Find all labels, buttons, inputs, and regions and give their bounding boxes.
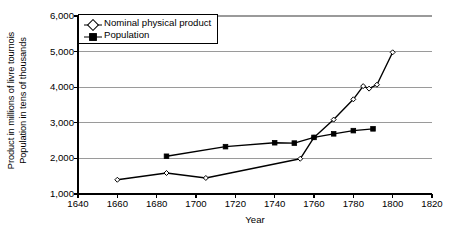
series-population xyxy=(164,127,375,159)
chart-legend: Nominal physical product Population xyxy=(78,14,218,44)
data-point xyxy=(331,132,336,137)
data-point xyxy=(115,177,120,182)
legend-item-nominal-physical-product: Nominal physical product xyxy=(83,17,211,29)
y-tick-label: 3,000 xyxy=(34,118,74,128)
y-tick-label: 6,000 xyxy=(34,11,74,21)
data-series-layer xyxy=(115,50,395,182)
x-tick-label: 1800 xyxy=(371,198,415,209)
y-tick-label: 4,000 xyxy=(34,82,74,92)
x-tick-label: 1720 xyxy=(213,198,257,209)
data-point xyxy=(371,127,376,132)
legend-item-population: Population xyxy=(83,29,211,41)
data-point xyxy=(164,171,169,176)
legend-label-population: Population xyxy=(103,29,149,41)
y-axis-tick-labels: 1,0002,0003,0004,0005,0006,000 xyxy=(30,16,74,194)
data-point xyxy=(351,128,356,133)
x-tick-label: 1760 xyxy=(292,198,336,209)
x-tick-label: 1820 xyxy=(410,198,452,209)
y-axis-title-line-1: Product in millions of livre tournois xyxy=(7,31,19,168)
legend-label-nominal-physical-product: Nominal physical product xyxy=(103,17,211,29)
x-tick-label: 1740 xyxy=(253,198,297,209)
x-tick-label: 1660 xyxy=(95,198,139,209)
data-point xyxy=(223,144,228,149)
x-axis-tick-labels: 1640166016801700172017401760178018001820 xyxy=(78,198,432,212)
x-tick-label: 1640 xyxy=(56,198,100,209)
x-tick-label: 1780 xyxy=(331,198,375,209)
data-point xyxy=(374,82,379,87)
x-tick-label: 1680 xyxy=(135,198,179,209)
data-point xyxy=(203,175,208,180)
data-point xyxy=(390,50,395,55)
filled-square-marker-icon xyxy=(83,29,103,41)
y-tick-label: 2,000 xyxy=(34,153,74,163)
data-point xyxy=(272,140,277,145)
data-point xyxy=(292,141,297,146)
series-nominal-physical-product xyxy=(115,50,395,182)
y-tick-label: 5,000 xyxy=(34,47,74,57)
y-axis-title-line-2: Population in tens of thousands xyxy=(18,31,30,168)
chart-figure: Product in millions of livre tournois Po… xyxy=(0,0,452,243)
data-point xyxy=(164,154,169,159)
x-axis-title: Year xyxy=(78,214,432,225)
open-diamond-marker-icon xyxy=(83,17,103,29)
data-point xyxy=(312,135,317,140)
x-tick-label: 1700 xyxy=(174,198,218,209)
